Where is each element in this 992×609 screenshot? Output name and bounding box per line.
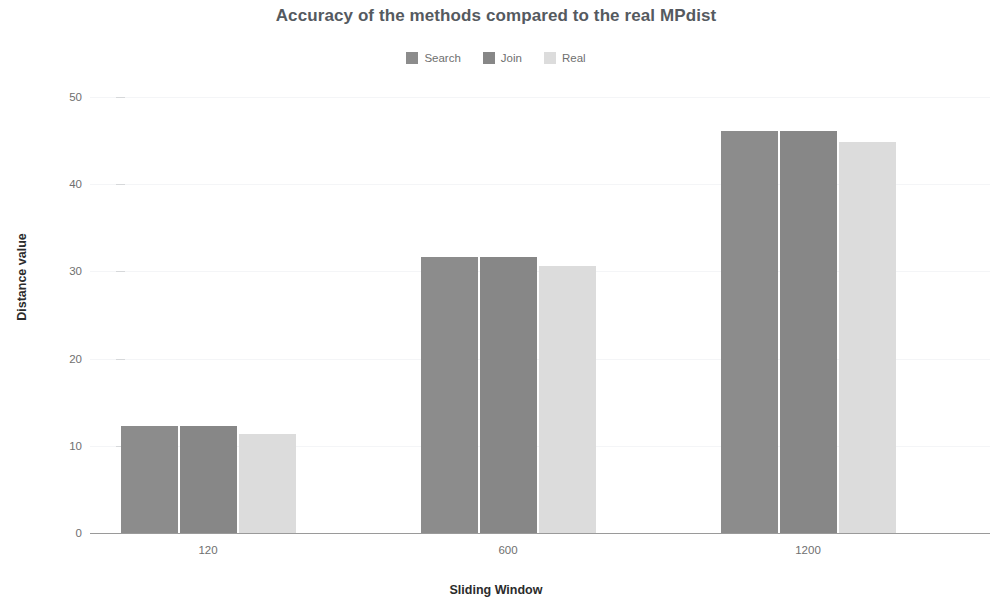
x-tick-label-600: 600 bbox=[498, 544, 517, 556]
bar-search-120[interactable] bbox=[121, 426, 178, 533]
bar-join-600[interactable] bbox=[480, 257, 537, 533]
x-axis-title: Sliding Window bbox=[0, 583, 992, 597]
bar-real-120[interactable] bbox=[239, 434, 296, 533]
bar-chart: Accuracy of the methods compared to the … bbox=[0, 0, 992, 609]
x-axis-line bbox=[90, 533, 990, 534]
x-tick-label-120: 120 bbox=[198, 544, 217, 556]
bar-real-600[interactable] bbox=[539, 266, 596, 533]
bar-search-600[interactable] bbox=[421, 257, 478, 533]
bar-join-120[interactable] bbox=[180, 426, 237, 533]
y-axis-title: Distance value bbox=[15, 217, 29, 337]
x-tick-label-1200: 1200 bbox=[795, 544, 821, 556]
bar-search-1200[interactable] bbox=[721, 131, 778, 533]
bar-real-1200[interactable] bbox=[839, 142, 896, 533]
bar-join-1200[interactable] bbox=[780, 131, 837, 533]
bars-layer bbox=[0, 0, 992, 533]
